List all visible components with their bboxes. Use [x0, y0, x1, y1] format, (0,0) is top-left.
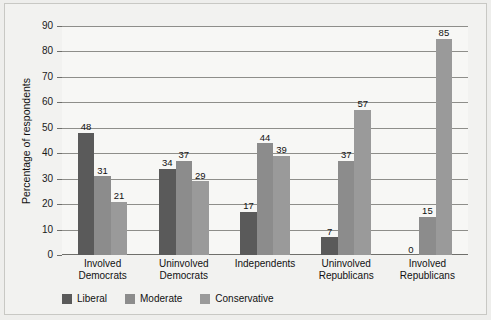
bar-group: 343729 — [159, 26, 209, 255]
bar-value-label: 21 — [114, 191, 125, 201]
x-axis-category-label-line: Involved — [387, 258, 468, 270]
x-axis-category-label-line: Republicans — [387, 270, 468, 282]
bar[interactable]: 34 — [159, 169, 176, 256]
x-axis-category-label: UninvolvedDemocrats — [143, 258, 224, 282]
chart-figure: Percentage of respondents 01020304050607… — [0, 0, 491, 320]
bar-slot: 7 — [321, 26, 338, 255]
bar-slot: 34 — [159, 26, 176, 255]
bar[interactable]: 39 — [273, 156, 290, 255]
bar-slot: 44 — [257, 26, 274, 255]
bar-value-label: 39 — [276, 145, 287, 155]
bar-group: 174439 — [240, 26, 290, 255]
legend-item[interactable]: Liberal — [62, 294, 107, 304]
x-axis-category-label-line: Democrats — [143, 270, 224, 282]
bar-slot: 15 — [419, 26, 436, 255]
bar-value-label: 34 — [162, 158, 173, 168]
bar-value-label: 0 — [408, 245, 413, 255]
bar-value-label: 48 — [81, 122, 92, 132]
bar[interactable]: 7 — [321, 237, 338, 255]
bar-group: 73757 — [321, 26, 371, 255]
bar-slot: 21 — [111, 26, 128, 255]
x-axis-category-label: InvolvedDemocrats — [62, 258, 143, 282]
legend-swatch — [62, 294, 72, 304]
y-axis-tick-label: 50 — [42, 123, 53, 133]
bar-slot: 85 — [436, 26, 453, 255]
x-axis-category-label-line: Democrats — [62, 270, 143, 282]
bar-slot: 37 — [176, 26, 193, 255]
x-axis-category-label: UninvolvedRepublicans — [306, 258, 387, 282]
x-axis-category-labels: InvolvedDemocratsUninvolvedDemocratsInde… — [62, 258, 468, 292]
bar-group: 483121 — [78, 26, 128, 255]
legend-label: Conservative — [215, 294, 273, 304]
x-axis-category-label-line: Republicans — [306, 270, 387, 282]
bar-value-label: 85 — [439, 28, 450, 38]
bar-value-label: 37 — [179, 150, 190, 160]
y-axis-title-label: Percentage of respondents — [20, 77, 32, 203]
bar-value-label: 37 — [341, 150, 352, 160]
bar[interactable]: 85 — [436, 39, 453, 255]
x-axis-category-label-line: Independents — [224, 258, 305, 270]
bar[interactable]: 37 — [176, 161, 193, 255]
y-axis-tick-label: 60 — [42, 97, 53, 107]
bar-value-label: 44 — [260, 133, 271, 143]
chart-frame: Percentage of respondents 01020304050607… — [4, 3, 487, 315]
bar-value-label: 17 — [243, 201, 254, 211]
plot-area: 0102030405060708090 48312134372917443973… — [62, 26, 468, 255]
y-axis-tick-label: 80 — [42, 46, 53, 56]
bar[interactable]: 48 — [78, 133, 95, 255]
x-axis-category-label-line: Uninvolved — [143, 258, 224, 270]
bar-slot: 31 — [94, 26, 111, 255]
x-axis-category-label-line: Involved — [62, 258, 143, 270]
legend-swatch — [125, 294, 135, 304]
legend-swatch — [200, 294, 210, 304]
legend-item[interactable]: Conservative — [200, 294, 273, 304]
y-axis-tick-label: 20 — [42, 199, 53, 209]
legend-label: Moderate — [140, 294, 182, 304]
bar[interactable]: 57 — [354, 110, 371, 255]
chart-legend: LiberalModerateConservative — [62, 294, 274, 304]
bar-value-label: 57 — [357, 99, 368, 109]
bar-slot: 37 — [338, 26, 355, 255]
bar-slot: 29 — [192, 26, 209, 255]
bar-group: 01585 — [403, 26, 453, 255]
x-axis-category-label-line: Uninvolved — [306, 258, 387, 270]
y-axis-title: Percentage of respondents — [19, 26, 33, 255]
y-axis-tick-label: 70 — [42, 72, 53, 82]
bar-slot: 48 — [78, 26, 95, 255]
y-axis-tick-label: 10 — [42, 225, 53, 235]
bar[interactable]: 29 — [192, 181, 209, 255]
bar[interactable]: 31 — [94, 176, 111, 255]
bar[interactable]: 37 — [338, 161, 355, 255]
x-axis-category-label: InvolvedRepublicans — [387, 258, 468, 282]
legend-item[interactable]: Moderate — [125, 294, 182, 304]
bar[interactable]: 17 — [240, 212, 257, 255]
bar-slot: 17 — [240, 26, 257, 255]
bar[interactable]: 21 — [111, 202, 128, 255]
x-axis-category-label: Independents — [224, 258, 305, 270]
bar-value-label: 31 — [97, 166, 108, 176]
y-axis-tick-label: 30 — [42, 174, 53, 184]
bar[interactable]: 15 — [419, 217, 436, 255]
bars-layer: 4831213437291744397375701585 — [62, 26, 468, 255]
bar[interactable]: 44 — [257, 143, 274, 255]
bar-value-label: 29 — [195, 171, 206, 181]
y-axis-tick — [57, 255, 62, 256]
bar-slot: 0 — [403, 26, 420, 255]
legend-label: Liberal — [77, 294, 107, 304]
bar-value-label: 15 — [422, 206, 433, 216]
y-axis-tick-label: 0 — [47, 250, 53, 260]
bar-slot: 39 — [273, 26, 290, 255]
bar-value-label: 7 — [327, 227, 332, 237]
bar-slot: 57 — [354, 26, 371, 255]
y-axis-tick-label: 90 — [42, 21, 53, 31]
y-axis-tick-label: 40 — [42, 148, 53, 158]
